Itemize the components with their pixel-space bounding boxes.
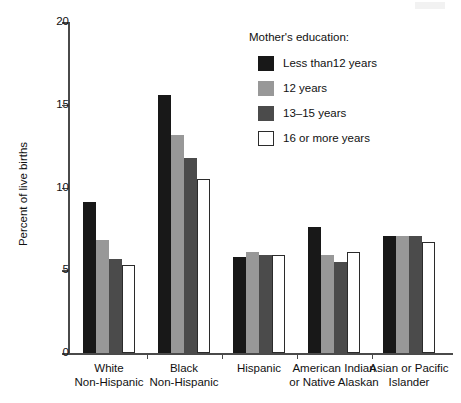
bar [321, 255, 334, 353]
bar [396, 236, 409, 354]
legend-swatch-white [258, 131, 274, 146]
legend-item-less-than-12-years: Less than12 years [247, 52, 437, 74]
bar [184, 158, 197, 353]
bar [109, 259, 122, 353]
y-tick-label-20: 20 [23, 16, 69, 28]
bar [259, 255, 272, 353]
bar [422, 242, 435, 353]
bar [347, 252, 360, 353]
x-axis-label-line1: Asian or Pacific [350, 361, 461, 375]
legend-label-1: 12 years [283, 82, 327, 94]
bar [383, 236, 396, 354]
x-axis-label-line2: Non-Hispanic [125, 375, 243, 389]
y-tick-label-15: 15 [23, 99, 69, 111]
x-axis-tick [147, 353, 148, 359]
legend-label-0: Less than12 years [283, 57, 377, 69]
bar-group [83, 22, 135, 353]
legend-swatch-dark-gray [258, 106, 274, 121]
legend-item-13-15-years: 13–15 years [247, 102, 437, 124]
legend-swatch-light-gray [258, 81, 274, 96]
x-axis-tick [372, 353, 373, 359]
legend-item-12-years: 12 years [247, 77, 437, 99]
x-axis-label-line2: Islander [350, 375, 461, 389]
y-tick-label-5: 5 [23, 264, 69, 276]
legend-swatch-black [258, 56, 274, 71]
y-tick-label-10: 10 [23, 182, 69, 194]
x-axis-tick [297, 353, 298, 359]
bar [83, 202, 96, 353]
x-axis-tick [222, 353, 223, 359]
bar [122, 265, 135, 353]
bar [158, 95, 171, 353]
bar [233, 257, 246, 353]
bar [96, 240, 109, 353]
x-axis-line [68, 353, 453, 355]
y-tick-label-0: 0 [23, 347, 69, 359]
legend-label-2: 13–15 years [283, 107, 346, 119]
scan-artifact [415, 2, 445, 9]
bar [197, 179, 210, 353]
x-axis-label: Asian or PacificIslander [350, 361, 461, 389]
legend: Mother's education: Less than12 years 12… [247, 31, 437, 152]
legend-title: Mother's education: [247, 31, 437, 43]
bar [246, 252, 259, 353]
y-axis-title: Percent of live births [17, 114, 29, 274]
bar [334, 262, 347, 353]
bar-chart-figure: 20 15 10 5 0 Percent of live births Whit… [0, 0, 461, 403]
bar [171, 135, 184, 353]
bar [272, 255, 285, 353]
bar-group [158, 22, 210, 353]
legend-label-3: 16 or more years [283, 132, 370, 144]
bar [308, 227, 321, 353]
legend-item-16-or-more-years: 16 or more years [247, 127, 437, 149]
bar [409, 236, 422, 354]
